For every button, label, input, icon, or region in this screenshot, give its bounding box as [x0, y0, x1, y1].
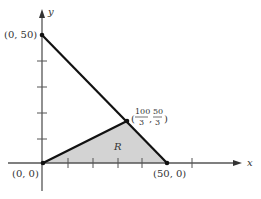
- svg-text:,: ,: [149, 113, 152, 124]
- x-axis-arrow-icon: [233, 160, 242, 166]
- vertex-y-intercept: [40, 33, 45, 38]
- y-axis-label: y: [47, 6, 54, 17]
- label-intersection: ( 100 3 , 50 3 ): [131, 107, 168, 127]
- region-r: [43, 121, 167, 163]
- vertex-x-intercept: [165, 161, 170, 166]
- feasible-region-diagram: y x R (0, 50) (0, 0) (50, 0) ( 100 3 , 5…: [0, 0, 261, 199]
- x-axis-label: x: [247, 157, 253, 168]
- region-label: R: [113, 141, 122, 152]
- label-x-intercept: (50, 0): [153, 168, 186, 179]
- y-axis-arrow-icon: [39, 9, 45, 18]
- label-y-intercept: (0, 50): [4, 29, 37, 40]
- svg-text:100: 100: [135, 107, 150, 116]
- label-origin: (0, 0): [12, 168, 39, 179]
- svg-text:3: 3: [155, 118, 160, 127]
- svg-text:50: 50: [153, 107, 163, 116]
- vertex-intersection: [125, 119, 130, 124]
- vertex-origin: [41, 161, 46, 166]
- svg-text:): ): [164, 113, 168, 124]
- svg-text:3: 3: [139, 118, 144, 127]
